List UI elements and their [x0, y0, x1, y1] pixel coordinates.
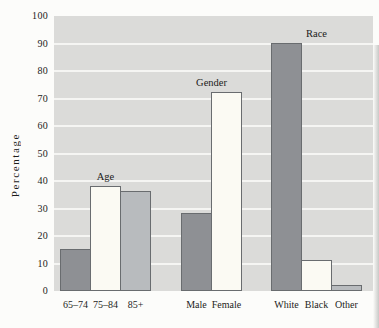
y-tick-label-0: 0 [12, 285, 48, 297]
x-tick-label-other: Other [307, 298, 379, 311]
bar-white [271, 43, 302, 292]
group-label-gender: Gender [172, 76, 252, 89]
y-tick-label-50: 50 [12, 148, 48, 160]
y-tick-label-90: 90 [12, 38, 48, 50]
y-tick-label-70: 70 [12, 93, 48, 105]
bar-65-74 [60, 249, 91, 291]
y-tick-label-30: 30 [12, 203, 48, 215]
gridline-80 [54, 70, 373, 72]
bar-75-84 [90, 186, 121, 292]
y-tick-label-60: 60 [12, 120, 48, 132]
bar-male [181, 213, 212, 291]
bar-female [211, 92, 242, 291]
bar-other [331, 285, 362, 292]
bar-black [301, 260, 332, 291]
plot-area [54, 16, 373, 291]
y-tick-label-10: 10 [12, 258, 48, 270]
y-axis-title: Percentage [9, 133, 21, 197]
bar-85 [120, 191, 151, 291]
bar-chart-figure: Percentage 010203040506070809010065–7475… [0, 0, 379, 328]
y-tick-label-20: 20 [12, 230, 48, 242]
y-tick-label-40: 40 [12, 175, 48, 187]
gridline-90 [54, 43, 373, 45]
group-label-race: Race [277, 27, 357, 40]
y-tick-label-100: 100 [12, 10, 48, 22]
group-label-age: Age [66, 170, 146, 183]
y-tick-label-80: 80 [12, 65, 48, 77]
page-edge-shading [373, 45, 379, 328]
